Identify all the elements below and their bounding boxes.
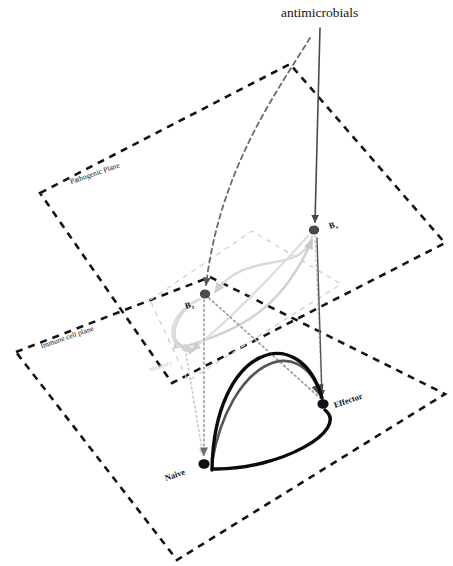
node-br[interactable] [200,290,210,299]
node-bs-subscript: s [335,224,339,230]
edges-layer [172,28,330,470]
node-naive[interactable] [198,459,209,469]
immune-cell-plane [16,277,445,560]
inner-resistance-plane [150,231,341,381]
nodes-layer [181,226,328,469]
node-br-subscript: r [191,303,196,310]
node-memory-label-group: Memory [148,358,174,373]
immune-cell-plane-label: Immune cell plane [39,323,95,350]
planes-layer: Pathogenic PlaneImmune cell plane [16,64,445,560]
node-bs-label-group: Bs [327,219,339,232]
edge-bs-vertical-to-effector [317,238,322,396]
edge-antimicrobials-to-br [206,38,310,285]
antimicrobials-label: antimicrobials [281,5,358,20]
node-effector-label-group: Effector [332,391,364,410]
edge-naive-to-effector-black [214,410,330,469]
edge-br-to-effector-dotted [209,298,320,398]
diagram-svg: Pathogenic PlaneImmune cell plane antimi… [0,0,453,566]
node-effector-label: Effector [332,391,364,410]
node-naive-label-group: Naive [163,467,186,483]
node-memory[interactable] [181,344,190,352]
node-naive-label: Naive [163,467,186,483]
pathogenic-plane [40,64,445,383]
edge-antimicrobials-to-bs [315,28,320,222]
node-memory-label: Memory [148,358,174,373]
node-bs[interactable] [309,226,319,235]
diagram-canvas: Pathogenic PlaneImmune cell plane antimi… [0,0,453,566]
node-effector[interactable] [317,399,328,409]
labels-layer: antimicrobials BsBrMemoryEffectorNaive [148,5,364,483]
